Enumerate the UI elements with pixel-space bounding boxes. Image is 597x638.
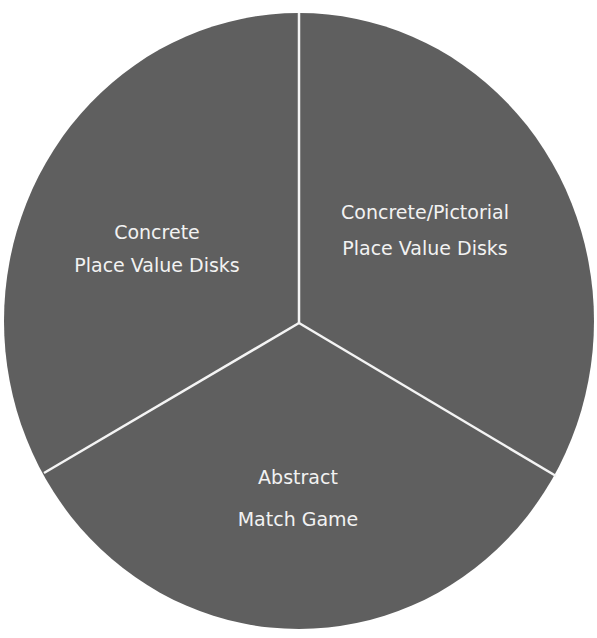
segment-concrete-line1: Concrete: [114, 221, 200, 243]
pie-diagram: Concrete Place Value Disks Concrete/Pict…: [0, 0, 597, 638]
segment-abstract-line2: Match Game: [238, 508, 359, 530]
segment-concrete-pictorial-line1: Concrete/Pictorial: [341, 201, 509, 223]
segment-concrete-pictorial-line2: Place Value Disks: [342, 237, 507, 259]
segment-concrete-line2: Place Value Disks: [74, 254, 239, 276]
segment-abstract-line1: Abstract: [258, 466, 338, 488]
